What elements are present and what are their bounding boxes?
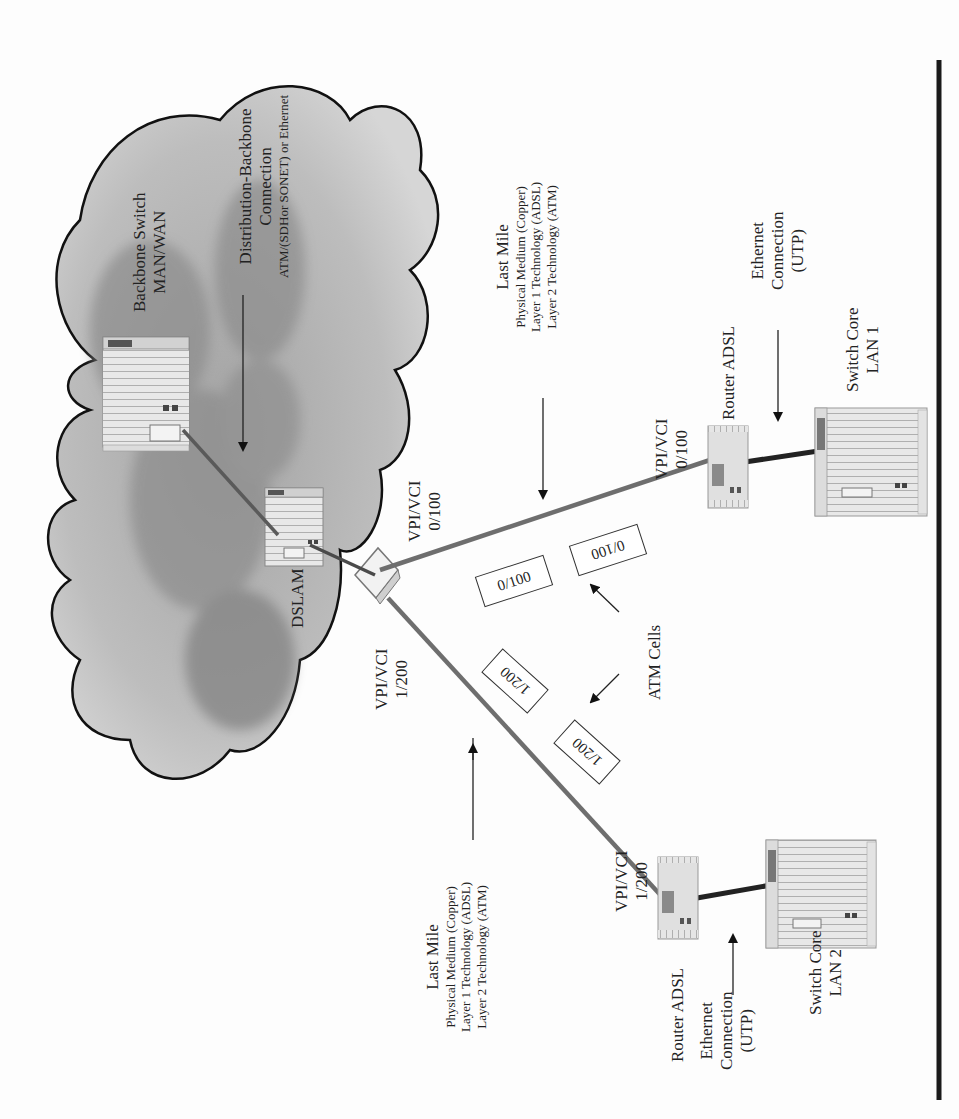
label-router1-vpi: VPI/VCI 0/100 [652, 419, 692, 480]
label-switch-lan1: Switch Core LAN 1 [843, 307, 883, 392]
arrow-atm-cells-down [591, 674, 619, 702]
router-adsl-1-device [708, 426, 748, 508]
router-adsl-2-device [658, 857, 698, 939]
label-router2: Router ADSL [668, 968, 688, 1062]
label-distribution-backbone: Distribution-Backbone Connection ATM/(SD… [236, 95, 291, 278]
switch-core-lan1-device [815, 408, 927, 516]
label-vpi-top: VPI/VCI 0/100 [405, 481, 445, 542]
label-backbone-switch: Backbone Switch MAN/WAN [130, 193, 170, 312]
label-atm-cells: ATM Cells [645, 625, 665, 700]
label-router1: Router ADSL [719, 326, 739, 420]
dslam-device [265, 488, 323, 566]
label-router2-vpi: VPI/VCI 1/200 [612, 851, 652, 912]
backbone-switch-device [103, 337, 189, 451]
label-ethernet-bottom: Ethernet Connection (UTP) [697, 992, 757, 1070]
label-dslam: DSLAM [288, 568, 308, 628]
splitter-device [355, 548, 400, 604]
label-switch-lan2: Switch Core LAN 2 [806, 930, 846, 1015]
label-vpi-bottom: VPI/VCI 1/200 [372, 649, 412, 710]
label-last-mile-top: Last Mile Physical Medium (Copper) Layer… [493, 182, 559, 332]
label-ethernet-top: Ethernet Connection (UTP) [748, 212, 808, 290]
label-last-mile-bottom: Last Mile Physical Medium (Copper) Layer… [423, 882, 489, 1032]
link-router2-switch2 [697, 884, 777, 898]
arrow-atm-cells-up [591, 585, 619, 612]
network-diagram: 0/100 0/100 1/200 1/200 Backbone Switch … [0, 0, 959, 1119]
link-router1-switch1 [745, 450, 825, 462]
